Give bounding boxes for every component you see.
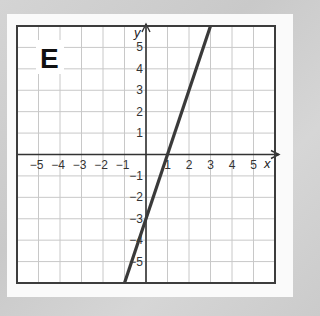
y-tick-label: −2: [129, 190, 143, 204]
y-tick-label: −1: [129, 169, 143, 183]
y-tick-label: 2: [136, 105, 143, 119]
x-tick-label: 3: [207, 158, 214, 172]
x-tick-label: −4: [51, 158, 65, 172]
x-tick-label: −1: [116, 158, 130, 172]
x-tick-label: 4: [229, 158, 236, 172]
x-tick-label: −2: [94, 158, 108, 172]
y-tick-label: 5: [136, 40, 143, 54]
x-tick-label: −5: [30, 158, 44, 172]
y-tick-label: 4: [136, 62, 143, 76]
x-axis-label: x: [263, 156, 271, 171]
y-tick-label: −3: [129, 212, 143, 226]
x-tick-label: 2: [186, 158, 193, 172]
y-tick-label: 3: [136, 83, 143, 97]
x-tick-label: 5: [250, 158, 257, 172]
y-tick-label: 1: [136, 126, 143, 140]
coordinate-plane: −5−4−3−2−112345−5−4−3−2−112345 E x y: [0, 0, 297, 316]
panel-label: E: [40, 43, 59, 74]
x-tick-label: −3: [73, 158, 87, 172]
